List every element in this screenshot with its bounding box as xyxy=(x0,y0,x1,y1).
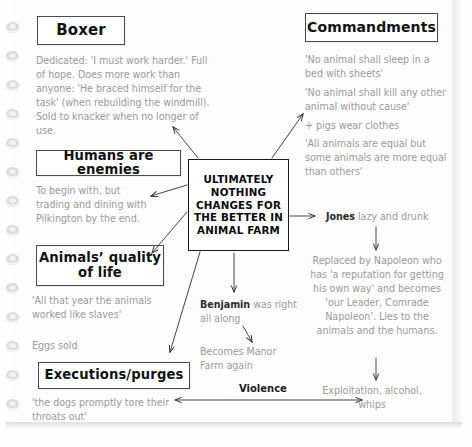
binding-ring xyxy=(6,341,19,351)
heading-label-boxer: Boxer xyxy=(56,22,105,38)
binding-ring xyxy=(6,138,19,148)
body-text-animals-quality-extra: Eggs sold xyxy=(32,339,182,353)
jones-lead-label: Jones xyxy=(326,211,355,222)
central-thesis-label: ULTIMATELY NOTHING CHANGES FOR THE BETTE… xyxy=(192,173,285,237)
heading-box-boxer[interactable]: Boxer xyxy=(37,16,125,45)
mind-map-page: Boxer Dedicated: 'I must work harder.' F… xyxy=(0,0,472,447)
binding-ring xyxy=(6,283,19,293)
commandment-line-2: 'No animal shall kill any other animal w… xyxy=(305,86,450,114)
binding-ring xyxy=(6,167,19,177)
heading-label-humans-are-enemies: Humans are enemies xyxy=(37,149,180,178)
heading-label-animals-quality-of-life: Animals’ quality of life xyxy=(37,251,163,280)
heading-label-commandments: Commandments xyxy=(307,20,436,35)
binding-ring xyxy=(6,51,19,61)
binding-ring xyxy=(6,109,19,119)
body-text-animals-quality-quote: 'All that year the animals worked like s… xyxy=(32,294,187,322)
body-text-boxer: Dedicated: 'I must work harder.' Full of… xyxy=(36,54,211,137)
jones-node: Jones lazy and drunk xyxy=(326,210,461,224)
manor-farm-node: Becomes Manor Farm again xyxy=(200,345,298,373)
binding-ring xyxy=(6,22,19,32)
binding-ring xyxy=(6,225,19,235)
heading-box-animals-quality-of-life[interactable]: Animals’ quality of life xyxy=(36,245,164,286)
binding-ring xyxy=(6,370,19,380)
binding-ring xyxy=(6,80,19,90)
body-text-executions-purges: 'the dogs promptly tore their throats ou… xyxy=(32,396,192,424)
binding-ring xyxy=(6,399,19,409)
jones-rest-label: lazy and drunk xyxy=(355,211,428,222)
heading-label-executions-purges: Executions/purges xyxy=(45,368,184,382)
violence-label: Violence xyxy=(239,383,287,394)
exploitation-node: Exploitation, alcohol, whips xyxy=(308,384,436,412)
binding-ring xyxy=(6,254,19,264)
heading-box-humans-are-enemies[interactable]: Humans are enemies xyxy=(36,150,181,176)
central-thesis-box[interactable]: ULTIMATELY NOTHING CHANGES FOR THE BETTE… xyxy=(188,159,289,251)
spiral-binding xyxy=(0,0,26,447)
heading-box-commandments[interactable]: Commandments xyxy=(305,13,438,42)
commandment-line-4: 'All animals are equal but some animals … xyxy=(305,137,451,179)
benjamin-lead-label: Benjamin xyxy=(200,299,250,310)
binding-ring xyxy=(6,196,19,206)
heading-box-executions-purges[interactable]: Executions/purges xyxy=(38,362,190,389)
commandment-line-3: + pigs wear clothes xyxy=(305,119,450,133)
binding-ring xyxy=(6,312,19,322)
commandment-line-1: 'No animal shall sleep in a bed with she… xyxy=(305,53,447,81)
napoleon-node: Replaced by Napoleon who has 'a reputati… xyxy=(306,254,448,337)
benjamin-node: Benjamin was right all along xyxy=(200,298,302,326)
body-text-humans-are-enemies: To begin with, but trading and dining wi… xyxy=(36,184,154,226)
